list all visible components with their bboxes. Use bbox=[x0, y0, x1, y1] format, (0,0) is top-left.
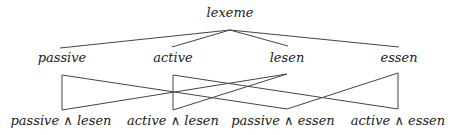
edge-essen-passive-essen bbox=[287, 73, 398, 109]
node-essen: essen bbox=[380, 50, 417, 65]
edge-lesen-active-lesen bbox=[173, 74, 287, 110]
node-active-essen: active ∧ essen bbox=[351, 113, 445, 128]
edge-lexeme-passive bbox=[60, 30, 230, 48]
edge-lesen-passive-lesen bbox=[62, 74, 287, 110]
edge-lexeme-active bbox=[172, 30, 230, 47]
edge-lexeme-essen bbox=[230, 30, 399, 47]
node-passive-lesen: passive ∧ lesen bbox=[11, 113, 112, 128]
node-lesen: lesen bbox=[270, 50, 305, 65]
edge-active-active-essen bbox=[173, 75, 398, 109]
node-passive: passive bbox=[38, 50, 87, 65]
node-active-lesen: active ∧ lesen bbox=[127, 113, 219, 128]
edge-lexeme-lesen bbox=[230, 30, 288, 46]
node-passive-essen: passive ∧ essen bbox=[231, 113, 335, 128]
node-active: active bbox=[153, 50, 193, 65]
lattice-diagram: lexeme passive active lesen essen passiv… bbox=[0, 0, 456, 135]
node-lexeme: lexeme bbox=[207, 5, 254, 20]
